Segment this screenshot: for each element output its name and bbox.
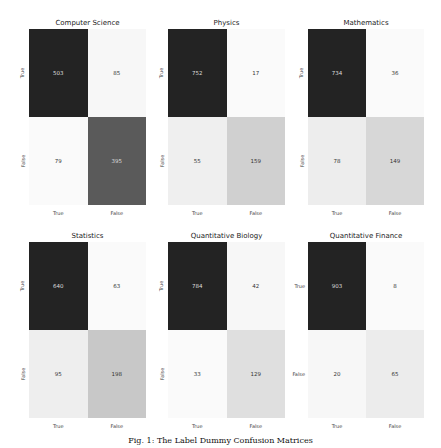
heatmap-grid: 7343678149 <box>308 29 424 205</box>
heatmap-cell: 63 <box>88 242 147 330</box>
heatmap-cell: 36 <box>366 29 424 117</box>
panel-title: Mathematics <box>308 19 424 27</box>
heatmap-cell: 503 <box>29 29 88 117</box>
x-tick-label: True <box>332 210 343 216</box>
y-tick-label: False <box>159 155 165 168</box>
heatmap-cell: 903 <box>308 242 366 330</box>
y-tick-label: False <box>20 155 26 168</box>
heatmap-grid: 6406395198 <box>29 242 146 418</box>
x-tick-label: False <box>389 423 402 429</box>
heatmap-cell: 640 <box>29 242 88 330</box>
heatmap-cell: 79 <box>29 117 88 205</box>
panel-title: Statistics <box>29 232 146 240</box>
y-tick-label: True <box>158 281 164 292</box>
heatmap-cell: 33 <box>168 330 227 418</box>
x-tick-label: False <box>110 423 123 429</box>
x-tick-label: True <box>53 210 64 216</box>
heatmap-cell: 78 <box>308 117 366 205</box>
panel-title: Quantitative Finance <box>308 232 424 240</box>
heatmap-cell: 784 <box>168 242 227 330</box>
y-tick-label: True <box>19 68 25 79</box>
heatmap-cell: 752 <box>168 29 227 117</box>
x-tick-label: False <box>249 210 262 216</box>
panel-title: Quantitative Biology <box>168 232 285 240</box>
heatmap-cell: 85 <box>88 29 147 117</box>
heatmap-cell: 734 <box>308 29 366 117</box>
y-tick-label: True <box>158 68 164 79</box>
confusion-matrix-panel: Quantitative Finance90382065TrueFalseTru… <box>308 242 424 418</box>
x-tick-label: False <box>110 210 123 216</box>
x-tick-label: True <box>332 423 343 429</box>
confusion-matrix-panel: Statistics6406395198TrueFalseTrueFalse <box>29 242 146 418</box>
heatmap-cell: 55 <box>168 117 227 205</box>
y-tick-label: True <box>294 283 305 289</box>
confusion-matrix-panel: Mathematics7343678149TrueFalseTrueFalse <box>308 29 424 205</box>
heatmap-cell: 198 <box>88 330 147 418</box>
panel-title: Computer Science <box>29 19 146 27</box>
heatmap-cell: 95 <box>29 330 88 418</box>
heatmap-cell: 395 <box>88 117 147 205</box>
heatmap-grid: 5038579395 <box>29 29 146 205</box>
y-tick-label: False <box>159 368 165 381</box>
heatmap-cell: 159 <box>227 117 286 205</box>
figure-caption: Fig. 1: The Label Dummy Confusion Matric… <box>0 436 441 445</box>
heatmap-cell: 8 <box>366 242 424 330</box>
confusion-matrix-panel: Physics7521755159TrueFalseTrueFalse <box>168 29 285 205</box>
heatmap-cell: 65 <box>366 330 424 418</box>
y-tick-label: True <box>298 68 304 79</box>
heatmap-grid: 90382065 <box>308 242 424 418</box>
heatmap-cell: 149 <box>366 117 424 205</box>
confusion-matrix-panel: Quantitative Biology7844233129TrueFalseT… <box>168 242 285 418</box>
panel-title: Physics <box>168 19 285 27</box>
heatmap-cell: 20 <box>308 330 366 418</box>
x-tick-label: True <box>53 423 64 429</box>
y-tick-label: False <box>299 155 305 168</box>
x-tick-label: False <box>249 423 262 429</box>
confusion-matrix-panel: Computer Science5038579395TrueFalseTrueF… <box>29 29 146 205</box>
heatmap-cell: 42 <box>227 242 286 330</box>
x-tick-label: True <box>192 210 203 216</box>
heatmap-cell: 129 <box>227 330 286 418</box>
heatmap-grid: 7844233129 <box>168 242 285 418</box>
y-tick-label: False <box>20 368 26 381</box>
heatmap-grid: 7521755159 <box>168 29 285 205</box>
x-tick-label: True <box>192 423 203 429</box>
x-tick-label: False <box>389 210 402 216</box>
y-tick-label: True <box>19 281 25 292</box>
y-tick-label: False <box>292 371 305 377</box>
heatmap-cell: 17 <box>227 29 286 117</box>
